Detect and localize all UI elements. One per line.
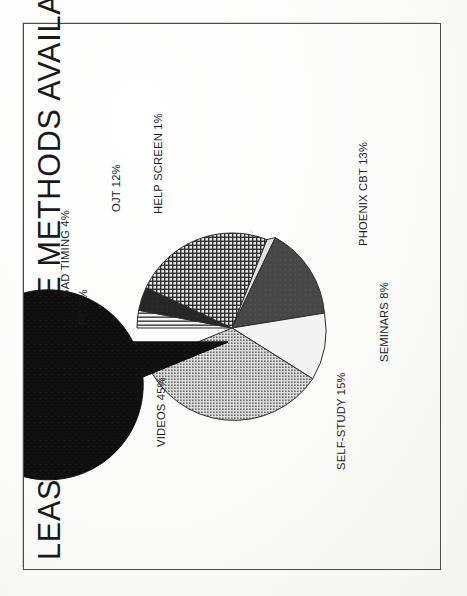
- pie-label-seminars: SEMINARS 8%: [378, 282, 390, 362]
- pie-chart: VIDEOS 45% PC 3% BAD TIMING 4% OJT 12% H…: [24, 18, 444, 578]
- pie-label-pc: PC 3%: [77, 289, 89, 325]
- slide-page: LEAST EFFECTIVE METHODS AVAILABLE: [0, 0, 467, 596]
- pie-label-self-study: SELF-STUDY 15%: [335, 372, 347, 470]
- pie-label-phoenix-cbt: PHOENIX CBT 13%: [357, 142, 369, 246]
- rotated-slide-stage: LEAST EFFECTIVE METHODS AVAILABLE: [24, 18, 444, 578]
- pie-label-bad-timing: BAD TIMING 4%: [59, 210, 71, 297]
- pie-label-videos: VIDEOS 45%: [155, 377, 167, 447]
- pie-label-help-screen: HELP SCREEN 1%: [152, 113, 164, 214]
- pie-label-ojt: OJT 12%: [110, 164, 122, 212]
